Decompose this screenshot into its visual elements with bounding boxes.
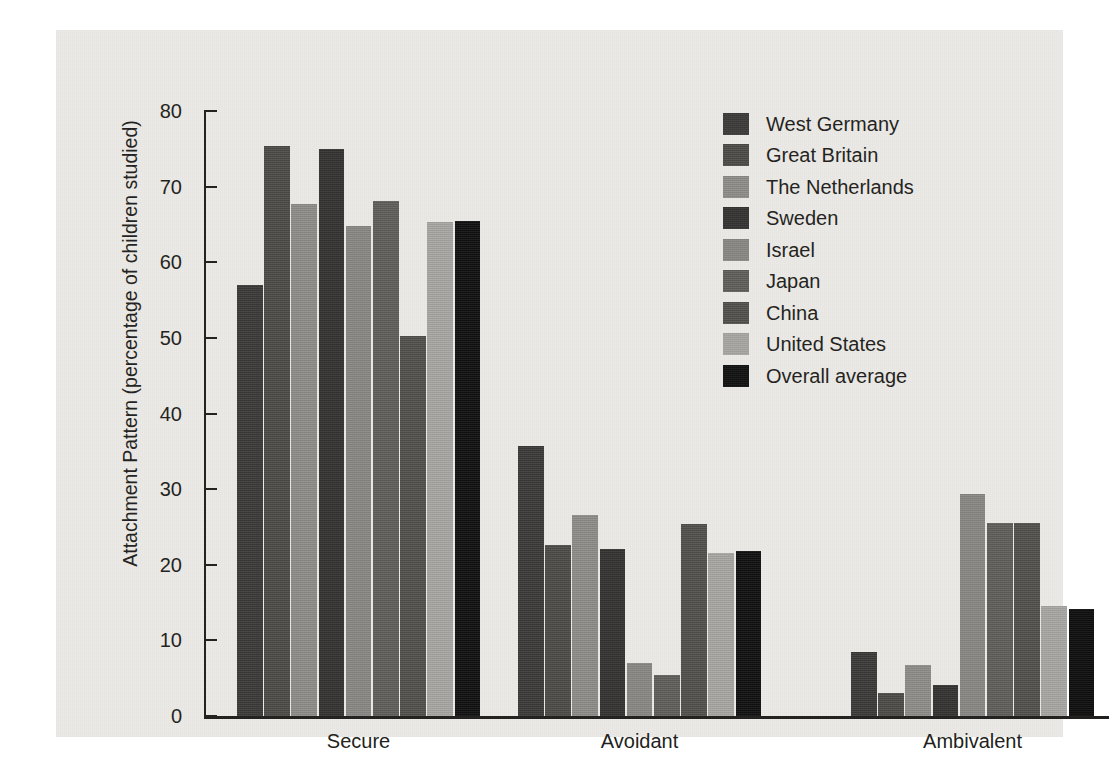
legend-item-china: China xyxy=(723,297,914,329)
y-axis-tick-label: 0 xyxy=(56,706,182,726)
bar-avoidant-united-states xyxy=(708,553,734,716)
bar-avoidant-china xyxy=(681,524,707,716)
bar-secure-the-netherlands xyxy=(291,204,317,716)
bar-ambivalent-china xyxy=(1014,523,1040,716)
y-axis-title: Attachment Pattern (percentage of childr… xyxy=(119,64,142,624)
y-axis-tick xyxy=(204,337,217,339)
legend-label: United States xyxy=(766,334,886,354)
bar-secure-great-britain xyxy=(264,146,290,716)
legend-label: Overall average xyxy=(766,366,907,386)
legend-item-the-netherlands: The Netherlands xyxy=(723,171,914,203)
legend-label: West Germany xyxy=(766,114,899,134)
bar-avoidant-the-netherlands xyxy=(572,515,598,716)
bar-avoidant-sweden xyxy=(600,549,626,716)
legend-item-west-germany: West Germany xyxy=(723,108,914,140)
y-axis-tick xyxy=(204,715,217,717)
bar-avoidant-overall-average xyxy=(736,551,762,716)
legend-label: The Netherlands xyxy=(766,177,914,197)
legend-label: Great Britain xyxy=(766,145,878,165)
legend-swatch-icon xyxy=(723,207,749,229)
legend-label: Sweden xyxy=(766,208,838,228)
bar-avoidant-great-britain xyxy=(545,545,571,716)
y-axis-tick xyxy=(204,110,217,112)
bar-secure-united-states xyxy=(427,222,453,716)
bar-secure-overall-average xyxy=(455,221,481,716)
legend-item-united-states: United States xyxy=(723,329,914,361)
legend-swatch-icon xyxy=(723,365,749,387)
bar-ambivalent-overall-average xyxy=(1069,609,1095,716)
bar-secure-japan xyxy=(373,201,399,716)
x-axis-line xyxy=(204,716,1109,719)
bar-ambivalent-great-britain xyxy=(878,693,904,716)
y-axis-tick xyxy=(204,488,217,490)
y-axis-tick xyxy=(204,186,217,188)
legend-label: Israel xyxy=(766,240,815,260)
bar-avoidant-west-germany xyxy=(518,446,544,716)
y-axis-tick-label: 10 xyxy=(56,630,182,650)
legend-item-great-britain: Great Britain xyxy=(723,140,914,172)
legend-swatch-icon xyxy=(723,239,749,261)
bar-secure-west-germany xyxy=(237,285,263,716)
y-axis-tick xyxy=(204,564,217,566)
legend-swatch-icon xyxy=(723,176,749,198)
bar-ambivalent-israel xyxy=(960,494,986,716)
bar-ambivalent-united-states xyxy=(1041,606,1067,716)
bar-ambivalent-japan xyxy=(987,523,1013,716)
legend-swatch-icon xyxy=(723,144,749,166)
bar-avoidant-israel xyxy=(627,663,653,716)
legend-label: China xyxy=(766,303,818,323)
legend-swatch-icon xyxy=(723,333,749,355)
bar-secure-sweden xyxy=(319,149,345,716)
legend-swatch-icon xyxy=(723,302,749,324)
figure-canvas: 01020304050607080 SecureAvoidantAmbivale… xyxy=(0,0,1117,767)
bar-secure-china xyxy=(400,336,426,716)
y-axis-tick xyxy=(204,261,217,263)
x-axis-label-ambivalent: Ambivalent xyxy=(923,730,1022,753)
bar-ambivalent-west-germany xyxy=(851,652,877,716)
chart-legend: West GermanyGreat BritainThe Netherlands… xyxy=(723,108,914,392)
bar-ambivalent-the-netherlands xyxy=(905,665,931,716)
bar-secure-israel xyxy=(346,226,372,716)
legend-swatch-icon xyxy=(723,270,749,292)
legend-item-overall-average: Overall average xyxy=(723,360,914,392)
legend-item-israel: Israel xyxy=(723,234,914,266)
legend-swatch-icon xyxy=(723,113,749,135)
y-axis-tick xyxy=(204,413,217,415)
bar-ambivalent-sweden xyxy=(933,685,959,716)
bar-avoidant-japan xyxy=(654,675,680,716)
legend-item-sweden: Sweden xyxy=(723,203,914,235)
legend-label: Japan xyxy=(766,271,821,291)
y-axis-tick xyxy=(204,639,217,641)
chart-panel: 01020304050607080 SecureAvoidantAmbivale… xyxy=(56,30,1063,737)
x-axis-label-secure: Secure xyxy=(327,730,390,753)
legend-item-japan: Japan xyxy=(723,266,914,298)
x-axis-label-avoidant: Avoidant xyxy=(601,730,678,753)
